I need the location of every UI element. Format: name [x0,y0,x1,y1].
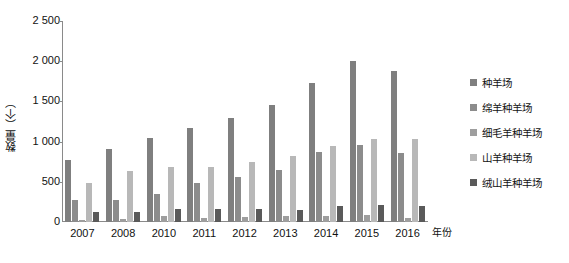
bar[interactable] [276,170,282,222]
bar[interactable] [350,61,356,222]
legend-swatch-icon [470,154,477,161]
bar[interactable] [249,162,255,222]
bar[interactable] [337,206,343,222]
legend-item[interactable]: 山羊种羊场 [470,145,569,170]
legend-item[interactable]: 种羊场 [470,70,569,95]
legend-item[interactable]: 细毛羊种羊场 [470,120,569,145]
bar-group [147,21,181,222]
bar[interactable] [208,167,214,222]
y-axis-tick-mark [58,142,62,143]
bar[interactable] [405,218,411,222]
y-axis-tick-label: 1 500 [18,95,60,106]
bar-group [350,21,384,222]
bar-group [269,21,303,222]
legend-item[interactable]: 绒山羊种羊场 [470,170,569,195]
bar-groups-container [62,21,428,222]
bar[interactable] [398,153,404,222]
bar[interactable] [364,215,370,222]
bar[interactable] [127,171,133,222]
bar-group [106,21,140,222]
legend-label: 种羊场 [482,77,512,89]
x-axis-tick-label: 2011 [192,226,216,242]
bar[interactable] [106,149,112,222]
bar[interactable] [316,152,322,222]
bar[interactable] [72,200,78,222]
chart-legend: 种羊场绵羊种羊场细毛羊种羊场山羊种羊场绒山羊种羊场 [470,70,569,195]
bar-chart-figure: 数量（个） 2 5002 0001 5001 0005000 200720082… [0,0,569,263]
x-axis-tick-label: 2010 [152,226,176,242]
bar[interactable] [93,212,99,222]
bar[interactable] [113,200,119,223]
bar[interactable] [215,209,221,222]
bar-group [391,21,425,222]
x-axis-tick-label: 2012 [232,226,256,242]
bar[interactable] [309,83,315,222]
legend-label: 细毛羊种羊场 [482,127,542,139]
bar-group [187,21,221,222]
bar[interactable] [391,71,397,222]
y-axis-tick-label: 2 000 [18,55,60,66]
bar[interactable] [357,145,363,222]
bar[interactable] [120,219,126,222]
x-axis-tick-label: 2007 [70,226,94,242]
bar[interactable] [242,217,248,222]
y-axis-tick-label: 1 000 [18,136,60,147]
bar-group [309,21,343,222]
bar[interactable] [147,138,153,222]
bar-group [65,21,99,222]
x-axis-tick-label: 2008 [111,226,135,242]
bar[interactable] [412,139,418,222]
bar[interactable] [154,194,160,222]
legend-label: 绒山羊种羊场 [482,177,542,189]
x-axis-tick-label: 2014 [314,226,338,242]
bar[interactable] [201,218,207,222]
bar[interactable] [65,160,71,222]
bar[interactable] [256,209,262,222]
plot-area [62,21,428,222]
bar[interactable] [330,146,336,222]
bar[interactable] [86,183,92,222]
x-axis-tick-labels: 200720082010201120122013201420152016 [62,226,428,242]
bar[interactable] [175,209,181,222]
bar[interactable] [378,205,384,222]
bar[interactable] [235,177,241,222]
legend-swatch-icon [470,179,477,186]
bar[interactable] [290,156,296,222]
x-axis-tick-label: 2015 [355,226,379,242]
bar[interactable] [323,216,329,222]
bar[interactable] [228,118,234,222]
bar[interactable] [283,216,289,222]
y-axis-tick-mark [58,21,62,22]
y-axis-tick-mark [58,182,62,183]
x-axis-title: 年份 [432,226,452,240]
bar[interactable] [371,139,377,222]
legend-item[interactable]: 绵羊种羊场 [470,95,569,120]
bar[interactable] [194,183,200,222]
legend-label: 山羊种羊场 [482,152,532,164]
y-axis-tick-label: 500 [18,176,60,187]
bar[interactable] [297,210,303,222]
y-axis-tick-label: 0 [18,216,60,227]
x-axis-tick-label: 2016 [395,226,419,242]
bar[interactable] [161,216,167,222]
bar[interactable] [269,105,275,222]
y-axis-tick-labels: 2 5002 0001 5001 0005000 [16,0,60,263]
bar[interactable] [134,212,140,222]
y-axis-tick-mark [58,61,62,62]
bar-group [228,21,262,222]
bar[interactable] [187,128,193,222]
bar[interactable] [419,206,425,222]
bar[interactable] [168,167,174,222]
y-axis-tick-mark [58,101,62,102]
x-axis-tick-label: 2013 [273,226,297,242]
legend-swatch-icon [470,129,477,136]
y-axis-tick-label: 2 500 [18,15,60,26]
legend-swatch-icon [470,79,477,86]
legend-label: 绵羊种羊场 [482,102,532,114]
bar[interactable] [79,220,85,222]
legend-swatch-icon [470,104,477,111]
